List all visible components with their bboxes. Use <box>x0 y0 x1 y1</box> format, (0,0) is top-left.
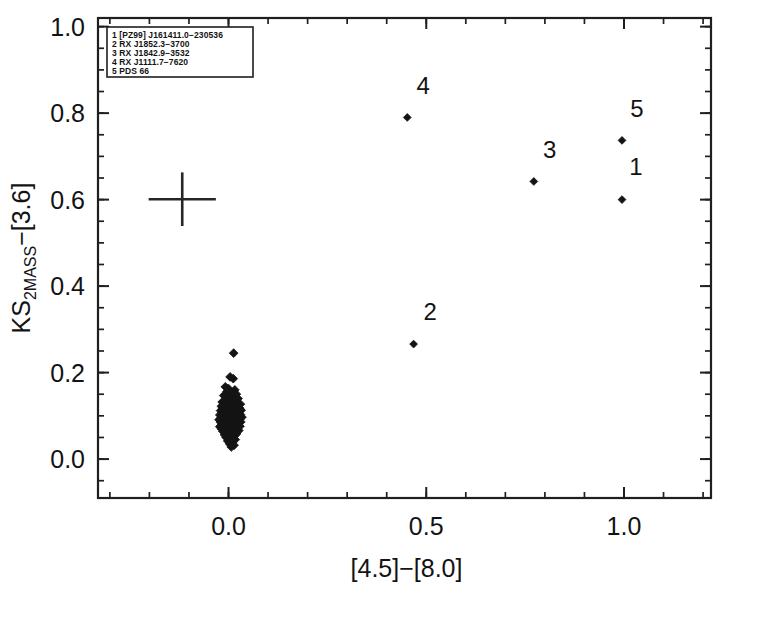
data-point-label-3: 3 <box>543 136 556 163</box>
data-point-5 <box>618 136 626 144</box>
data-point-label-1: 1 <box>629 153 642 180</box>
y-axis-title-rest: −[3.6] <box>7 183 35 246</box>
y-tick-label: 0.4 <box>50 272 85 300</box>
data-point-2 <box>410 340 418 348</box>
legend-entry-5: 5 PDS 66 <box>112 66 149 76</box>
data-point-label-4: 4 <box>416 72 429 99</box>
data-points-labeled: 12345 <box>403 72 643 348</box>
data-point-label-2: 2 <box>424 298 437 325</box>
legend-box: 1 [PZ99] J161411.0−2305362 RX J1852.3−37… <box>107 27 253 77</box>
y-tick-label: 1.0 <box>50 13 85 41</box>
axes-frame <box>98 18 711 498</box>
axis-ticks <box>98 18 711 498</box>
y-tick-label: 0.6 <box>50 186 85 214</box>
scatter-plot-figure: 0.00.51.0 0.00.20.40.60.81.0 12345 1 [PZ… <box>0 0 763 624</box>
x-tick-label: 0.0 <box>211 512 246 540</box>
x-axis-tick-labels: 0.00.51.0 <box>211 512 641 540</box>
y-axis-title-subscript: 2MASS <box>22 246 39 300</box>
data-point-4 <box>403 114 411 122</box>
data-point <box>229 349 238 358</box>
y-tick-label: 0.0 <box>50 445 85 473</box>
y-axis-tick-labels: 0.00.20.40.60.81.0 <box>50 13 85 473</box>
data-point-3 <box>530 178 538 186</box>
x-tick-label: 0.5 <box>409 512 444 540</box>
y-axis-title-text: KS2MASS−[3.6] <box>7 183 39 334</box>
data-points-cluster <box>215 349 247 452</box>
x-axis-title: [4.5]−[8.0] <box>351 554 463 582</box>
data-point-label-5: 5 <box>630 95 643 122</box>
y-axis-title-main: KS <box>7 300 35 333</box>
y-tick-label: 0.2 <box>50 359 85 387</box>
data-point-1 <box>618 196 626 204</box>
error-bar-cross <box>149 172 216 226</box>
y-axis-title: KS2MASS−[3.6] <box>7 183 39 334</box>
plot-frame <box>98 18 711 498</box>
y-tick-label: 0.8 <box>50 99 85 127</box>
plot-canvas: 0.00.51.0 0.00.20.40.60.81.0 12345 1 [PZ… <box>0 0 763 624</box>
x-tick-label: 1.0 <box>607 512 642 540</box>
